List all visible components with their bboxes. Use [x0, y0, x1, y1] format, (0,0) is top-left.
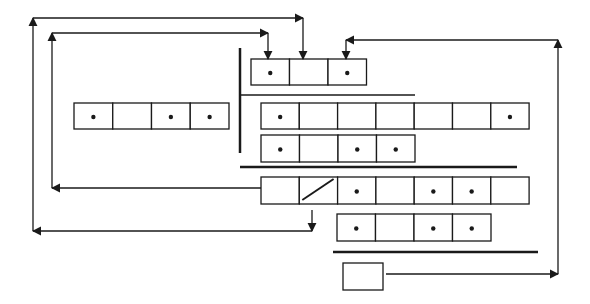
record-cell [300, 135, 339, 162]
record-cell [113, 103, 152, 129]
pointer-dot-icon [354, 226, 358, 230]
record-cell [261, 177, 299, 204]
pointer-dot-icon [470, 226, 474, 230]
pointer-dot-icon [207, 115, 211, 119]
pointer-dot-icon [278, 147, 282, 151]
row2-record [261, 103, 529, 129]
record-cell [491, 177, 529, 204]
records [74, 59, 529, 290]
left-record [74, 103, 229, 129]
row4-record [261, 177, 529, 204]
record-cell [376, 103, 414, 129]
record-cell [343, 263, 383, 290]
pointer-dot-icon [431, 189, 435, 193]
single-box [343, 263, 383, 290]
pointer-dot-icon [169, 115, 173, 119]
pointer-dot-icon [345, 71, 349, 75]
record-cell [299, 103, 337, 129]
pointer-dot-icon [469, 189, 473, 193]
pointer-dot-icon [355, 189, 359, 193]
pointer-dot-icon [508, 115, 512, 119]
pointer-dot-icon [431, 226, 435, 230]
linked-record-diagram [0, 0, 590, 304]
record-cell [453, 103, 491, 129]
pointer-dot-icon [268, 71, 272, 75]
record-cell [338, 103, 376, 129]
pointer-dot-icon [394, 147, 398, 151]
top-record [251, 59, 367, 85]
pointer-dot-icon [91, 115, 95, 119]
record-cell [290, 59, 329, 85]
pointer-dot-icon [278, 115, 282, 119]
row3-record [261, 135, 415, 162]
record-cell [414, 103, 452, 129]
record-cell [376, 177, 414, 204]
row5-record [337, 214, 491, 241]
pointer-dot-icon [355, 147, 359, 151]
record-cell [376, 214, 415, 241]
